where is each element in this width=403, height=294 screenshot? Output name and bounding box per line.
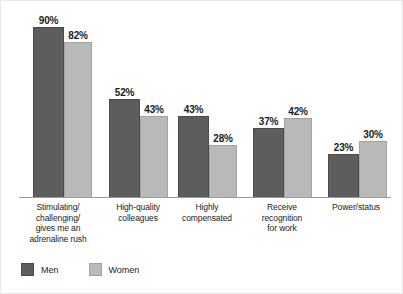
- bar-chart: 90%82%52%43%43%28%37%42%23%30% Stimulati…: [0, 0, 403, 294]
- legend-swatch-icon: [89, 263, 102, 276]
- category-label-line: adrenaline rush: [12, 234, 104, 245]
- category-label-line: Receive: [242, 202, 322, 213]
- chart-legend: MenWomen: [21, 263, 169, 276]
- category-label-line: colleagues: [98, 213, 178, 224]
- bar-women: 30%: [359, 141, 387, 198]
- category-label: Receiverecognitionfor work: [242, 202, 322, 234]
- category-label-line: challenging/: [12, 213, 104, 224]
- bar-women: 42%: [284, 118, 312, 198]
- bar-pair: 52%43%: [109, 26, 168, 198]
- bar-men: 37%: [253, 128, 284, 198]
- plot-area: 90%82%52%43%43%28%37%42%23%30%: [1, 1, 403, 198]
- category-label-line: Power/status: [311, 202, 401, 213]
- category-label-line: Stimulating/: [12, 202, 104, 213]
- legend-swatch-icon: [21, 263, 34, 276]
- category-label-line: High-quality: [98, 202, 178, 213]
- bar-value-label: 37%: [259, 116, 278, 127]
- bar-value-label: 43%: [144, 104, 163, 115]
- bar-value-label: 82%: [68, 30, 87, 41]
- bar-men: 90%: [33, 27, 64, 198]
- bar-value-label: 28%: [213, 133, 232, 144]
- bar-value-label: 43%: [184, 104, 203, 115]
- category-label-line: recognition: [242, 213, 322, 224]
- bar-pair: 90%82%: [33, 26, 92, 198]
- category-label-line: Highly: [167, 202, 247, 213]
- bar-women: 82%: [64, 42, 92, 198]
- category-label: Stimulating/challenging/gives me anadren…: [12, 202, 104, 244]
- category-label-line: compensated: [167, 213, 247, 224]
- bar-pair: 43%28%: [178, 26, 237, 198]
- category-label-line: for work: [242, 223, 322, 234]
- legend-item-women: Women: [89, 263, 140, 276]
- category-label: High-qualitycolleagues: [98, 202, 178, 223]
- bar-men: 52%: [109, 99, 140, 198]
- bar-value-label: 30%: [363, 129, 382, 140]
- category-labels: Stimulating/challenging/gives me anadren…: [1, 202, 403, 254]
- bar-pair: 23%30%: [328, 26, 387, 198]
- bar-pair: 37%42%: [253, 26, 312, 198]
- x-axis-baseline: [19, 197, 391, 198]
- category-label: Power/status: [311, 202, 401, 213]
- category-label-line: gives me an: [12, 223, 104, 234]
- bar-value-label: 90%: [39, 15, 58, 26]
- bar-value-label: 42%: [288, 106, 307, 117]
- legend-item-men: Men: [21, 263, 59, 276]
- legend-label: Women: [109, 265, 140, 275]
- bar-men: 43%: [178, 116, 209, 198]
- category-label: Highlycompensated: [167, 202, 247, 223]
- bar-men: 23%: [328, 154, 359, 198]
- bar-value-label: 23%: [334, 142, 353, 153]
- bar-women: 43%: [140, 116, 168, 198]
- legend-label: Men: [41, 265, 59, 275]
- bar-value-label: 52%: [115, 87, 134, 98]
- bar-women: 28%: [209, 145, 237, 198]
